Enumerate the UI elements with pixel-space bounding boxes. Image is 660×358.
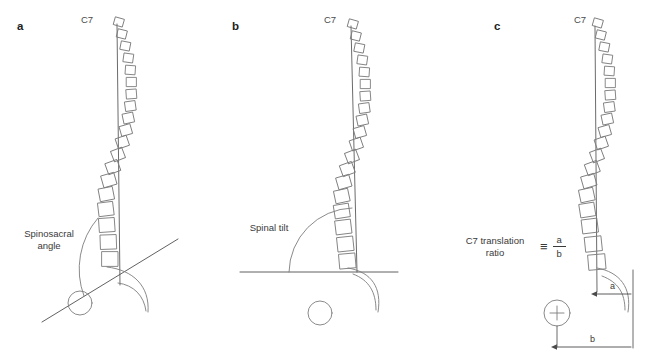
spinosacral-angle-label: Spinosacralangle [10, 228, 88, 252]
spinal-tilt-label: Spinal tilt [228, 222, 310, 234]
ratio-line-1: C7 translation [466, 235, 525, 246]
sacrum-curve [107, 267, 148, 312]
ratio-line-2: ratio [486, 247, 504, 258]
panel-c-drawing [440, 0, 660, 358]
measure-b-label: b [590, 334, 595, 344]
femoral-head-circle-crosshair [544, 300, 570, 347]
vertebral-column [579, 18, 616, 270]
fraction-numerator: a [553, 234, 566, 246]
c7-label: C7 [574, 14, 586, 25]
c7-label: C7 [324, 14, 336, 25]
panel-a: a C7 Spinosacralangle [0, 0, 220, 358]
c7-translation-ratio-label: C7 translationratio [454, 235, 536, 259]
c7-translation-ratio-equation: C7 translationratio ≡ a b [454, 234, 566, 259]
fraction-a-over-b: a b [553, 234, 566, 259]
sacrum-curve [348, 268, 379, 312]
anno-line-2: angle [37, 240, 60, 251]
equals-sign: ≡ [540, 239, 548, 254]
panel-letter-c: c [494, 20, 500, 32]
panel-letter-a: a [17, 20, 23, 32]
sacrum-curve-inner [353, 274, 376, 310]
c7-plumb-line [595, 26, 597, 292]
sacrum-curve-inner [118, 283, 146, 311]
panel-letter-b: b [232, 20, 239, 32]
panel-b: b C7 Spinal tilt [220, 0, 440, 358]
panel-a-drawing [0, 0, 220, 358]
fraction-denominator: b [553, 246, 566, 259]
figure-canvas: a C7 Spinosacralangle [0, 0, 660, 358]
vertebral-column [334, 19, 371, 269]
femoral-head-circle [308, 301, 332, 325]
measure-a-label: a [610, 281, 615, 291]
c7-label: C7 [81, 14, 93, 25]
c7-plumb-line [117, 24, 120, 285]
panel-b-drawing [220, 0, 440, 358]
anno-line-1: Spinosacral [24, 228, 74, 239]
femoral-head-circle [68, 291, 92, 315]
panel-c: c C7 C7 translationratio ≡ a b a b [440, 0, 660, 358]
